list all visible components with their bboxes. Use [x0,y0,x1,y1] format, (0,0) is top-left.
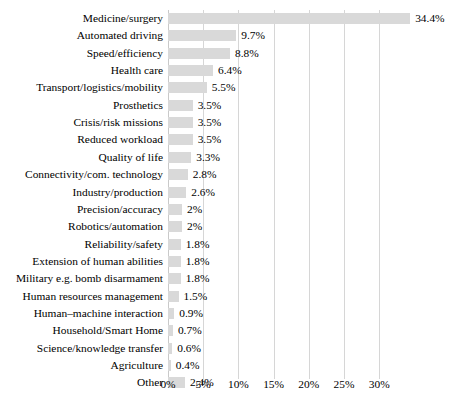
bar-row: Connectivity/com. technology2.8% [0,168,459,185]
bar [168,65,213,76]
category-label: Quality of life [0,151,163,164]
bar-value-label: 2.6% [191,186,215,199]
category-label: Reduced workload [0,133,163,146]
bar-row: Quality of life3.3% [0,151,459,168]
bar [168,169,188,180]
category-label: Crisis/risk missions [0,116,163,129]
bar [168,30,236,41]
bar-row: Transport/logistics/mobility5.5% [0,81,459,98]
bar-row: Health care6.4% [0,64,459,81]
bar [168,308,174,319]
category-label: Agriculture [0,359,163,372]
category-label: Human–machine interaction [0,307,163,320]
category-label: Automated driving [0,29,163,42]
bar-row: Precision/accuracy2% [0,203,459,220]
category-label: Connectivity/com. technology [0,168,163,181]
category-label: Transport/logistics/mobility [0,81,163,94]
bar-row: Industry/production2.6% [0,186,459,203]
bar [168,100,193,111]
category-label: Reliability/safety [0,238,163,251]
bar [168,48,230,59]
bar-value-label: 6.4% [218,64,242,77]
bar [168,256,181,267]
bar-row: Robotics/automation2% [0,220,459,237]
bar-value-label: 3.5% [198,99,222,112]
x-tick-label: 10% [228,378,249,391]
bar-row: Speed/efficiency8.8% [0,47,459,64]
bar-value-label: 0.7% [178,324,202,337]
category-label: Precision/accuracy [0,203,163,216]
bar [168,291,179,302]
bar-row: Science/knowledge transfer0.6% [0,342,459,359]
bar-row: Reduced workload3.5% [0,133,459,150]
category-label: Prosthetics [0,99,163,112]
bar-row: Prosthetics3.5% [0,99,459,116]
bar-value-label: 8.8% [235,47,259,60]
bar-value-label: 3.5% [198,116,222,129]
bar [168,187,186,198]
bar [168,134,193,145]
bar-row: Medicine/surgery34.4% [0,12,459,29]
category-label: Medicine/surgery [0,12,163,25]
bar [168,325,173,336]
bar-row: Extension of human abilities1.8% [0,255,459,272]
bar-value-label: 3.3% [196,151,220,164]
category-label: Household/Smart Home [0,324,163,337]
bar [168,273,181,284]
bar-value-label: 2% [187,203,202,216]
bar-row: Human resources management1.5% [0,290,459,307]
category-label: Speed/efficiency [0,47,163,60]
bar-chart: Medicine/surgery34.4%Automated driving9.… [0,0,459,420]
bar-value-label: 1.8% [186,255,210,268]
x-tick-label: 25% [334,378,355,391]
bar-value-label: 0.4% [176,359,200,372]
bar [168,343,172,354]
bar-value-label: 2.8% [193,168,217,181]
bar [168,82,207,93]
x-axis-tick-labels: 0%5%10%15%20%25%30% [0,378,459,398]
bar [168,221,182,232]
x-tick-label: 0% [160,378,175,391]
category-label: Health care [0,64,163,77]
bar-value-label: 0.6% [177,342,201,355]
bar [168,117,193,128]
bar [168,360,171,371]
bar [168,239,181,250]
bar-value-label: 1.5% [184,290,208,303]
bar-row: Military e.g. bomb disarmament1.8% [0,272,459,289]
category-label: Industry/production [0,186,163,199]
category-label: Science/knowledge transfer [0,342,163,355]
bar-row: Human–machine interaction0.9% [0,307,459,324]
bar-value-label: 9.7% [241,29,265,42]
bar-value-label: 1.8% [186,238,210,251]
bar-value-label: 3.5% [198,133,222,146]
bar [168,204,182,215]
x-tick-label: 20% [298,378,319,391]
x-tick-label: 5% [196,378,211,391]
bar-value-label: 34.4% [415,12,444,25]
category-label: Extension of human abilities [0,255,163,268]
bar-row: Crisis/risk missions3.5% [0,116,459,133]
bar-value-label: 1.8% [186,272,210,285]
bar-row: Household/Smart Home0.7% [0,324,459,341]
bar-row: Agriculture0.4% [0,359,459,376]
category-label: Robotics/automation [0,220,163,233]
bar [168,152,191,163]
category-label: Military e.g. bomb disarmament [0,272,163,285]
bar [168,13,410,24]
x-tick-label: 15% [263,378,284,391]
bar-value-label: 0.9% [179,307,203,320]
x-tick-label: 30% [369,378,390,391]
bar-row: Reliability/safety1.8% [0,238,459,255]
category-label: Human resources management [0,290,163,303]
bar-row: Automated driving9.7% [0,29,459,46]
bar-value-label: 2% [187,220,202,233]
bar-value-label: 5.5% [212,81,236,94]
